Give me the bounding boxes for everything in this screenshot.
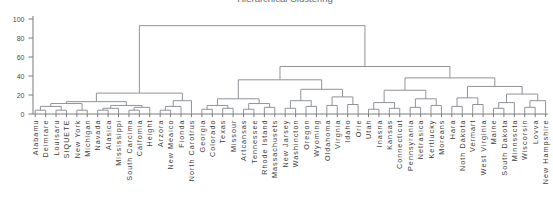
leaf-label: New Hampshire: [541, 120, 550, 185]
leaf-label: New York: [73, 120, 82, 159]
leaf-label: Idaho: [343, 120, 352, 143]
leaf-label: Hara: [448, 120, 457, 140]
leaf-label: Navada: [93, 120, 102, 151]
leaf-label: Height: [145, 120, 154, 147]
leaf-label: Louisaru: [52, 120, 61, 156]
leaf-label: Washincton: [291, 120, 300, 168]
leaf-label: Calfomia: [135, 120, 144, 157]
leaf-label: North Carotrus: [187, 120, 196, 182]
leaf-label: Alasica: [104, 120, 113, 151]
leaf-label: Kansas: [385, 120, 394, 150]
leaf-label: Netrasica: [416, 120, 425, 160]
leaf-label: Artcansas: [239, 120, 248, 161]
leaf-label: Inasna: [375, 120, 384, 148]
leaf-label: Rhode Istand: [260, 120, 269, 175]
leaf-label: Mississippi: [114, 120, 123, 166]
leaf-label: Missour: [229, 120, 238, 153]
leaf-label: Michigan: [83, 120, 92, 157]
leaf-label: New Jarsey: [281, 120, 290, 168]
leaf-label: Alabamu: [31, 120, 40, 156]
y-tick-label: 0: [21, 111, 25, 118]
y-tick-label: 80: [17, 35, 25, 42]
leaf-label: Maine: [489, 120, 498, 145]
leaf-label: Fionda: [177, 120, 186, 148]
leaf-label: South Dakota: [500, 120, 509, 176]
leaf-label: Moreans: [437, 120, 446, 155]
leaf-label: Connecticut: [395, 120, 404, 170]
leaf-label: Vermart: [468, 120, 477, 153]
dendrogram-chart: 020406080100Hierarchical ClusteringAlaba…: [0, 0, 553, 201]
y-tick-label: 100: [13, 16, 25, 23]
leaf-label: Wyoming: [312, 120, 321, 157]
leaf-label: Oregon: [302, 120, 311, 150]
leaf-label: Kertlucky: [427, 120, 436, 159]
leaf-label: Utah: [364, 120, 373, 139]
leaf-label: Pennsyrania: [406, 120, 415, 172]
leaf-label: Tennessee: [250, 120, 259, 164]
dendrogram-links: [35, 26, 545, 114]
leaf-label: Colorado: [208, 120, 217, 158]
leaf-label: South Carcima: [125, 120, 134, 181]
leaf-label: West Virginia: [479, 120, 488, 176]
leaf-label: Texas: [218, 120, 227, 144]
y-tick-label: 60: [17, 54, 25, 61]
leaf-label: Minnsscta: [510, 120, 519, 162]
leaf-label: Noth Dakota: [458, 120, 467, 172]
leaf-label: Orie: [354, 120, 363, 138]
leaf-label: New Meaico: [166, 120, 175, 170]
y-tick-label: 40: [17, 73, 25, 80]
leaf-label: Massachusets: [270, 120, 279, 179]
leaf-label: Virgnia: [333, 120, 342, 150]
leaf-label: Oldahoma: [323, 120, 332, 162]
leaf-label: Georgia: [198, 120, 207, 153]
leaf-label: Arzora: [156, 120, 165, 147]
y-tick-label: 20: [17, 92, 25, 99]
leaf-label: SIQUETE: [62, 120, 71, 159]
leaf-label: Lovva: [531, 120, 540, 144]
dendrogram-figure: 020406080100Hierarchical ClusteringAlaba…: [0, 0, 553, 201]
leaf-label: Wiscorsin: [520, 120, 529, 161]
leaf-label: Deimrare: [41, 120, 50, 158]
chart-title: Hierarchical Clustering: [237, 0, 333, 4]
